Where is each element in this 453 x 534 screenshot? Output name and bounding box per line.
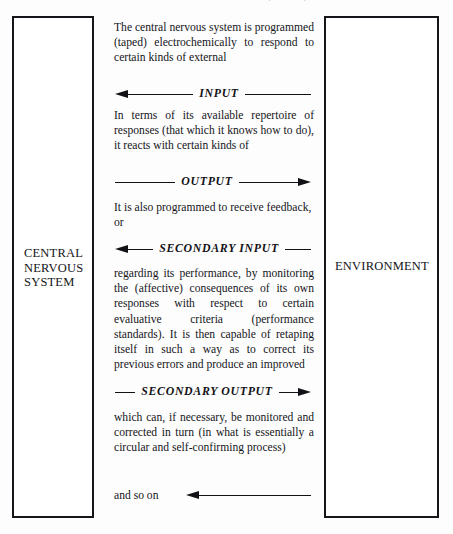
arrow-shaft (285, 249, 311, 250)
arrow-shaft (115, 392, 135, 393)
paragraph-5: which can, if necessary, be monitored an… (114, 410, 314, 456)
arrow-input-label: INPUT (193, 88, 245, 100)
arrow-shaft (198, 495, 311, 496)
paragraph-3: It is also programmed to receive feedbac… (114, 200, 314, 230)
paragraph-2: In terms of its available repertoire of … (114, 108, 314, 154)
arrow-output: OUTPUT (115, 174, 311, 190)
arrow-shaft (245, 94, 311, 95)
arrowhead-right-icon (298, 178, 311, 186)
central-nervous-system-label: CENTRAL NERVOUS SYSTEM (24, 246, 83, 290)
closing-text: and so on (114, 488, 176, 503)
arrow-secondary-input-label: SECONDARY INPUT (153, 243, 285, 255)
flow-column: The central nervous system is programmed… (114, 16, 314, 518)
arrow-loop-back (186, 487, 311, 503)
running-header: THE CNS AS A SELF-CORRECTING (TAPED) SYS… (0, 0, 453, 1)
arrow-shaft (115, 182, 175, 183)
central-nervous-system-box: CENTRAL NERVOUS SYSTEM (12, 16, 94, 518)
paragraph-1: The central nervous system is programmed… (114, 20, 314, 66)
arrow-output-label: OUTPUT (175, 176, 238, 188)
environment-label: ENVIRONMENT (335, 259, 429, 274)
arrow-input: INPUT (115, 86, 311, 102)
arrowhead-right-icon (298, 388, 311, 396)
arrow-shaft (127, 249, 153, 250)
arrow-secondary-output: SECONDARY OUTPUT (115, 384, 311, 400)
arrow-secondary-output-label: SECONDARY OUTPUT (135, 386, 278, 398)
arrow-shaft (279, 392, 299, 393)
environment-box: ENVIRONMENT (324, 16, 439, 518)
arrow-shaft (239, 182, 299, 183)
paragraph-4: regarding its performance, by monitoring… (114, 266, 314, 372)
arrow-shaft (127, 94, 193, 95)
diagram-page: THE CNS AS A SELF-CORRECTING (TAPED) SYS… (0, 0, 453, 534)
arrow-secondary-input: SECONDARY INPUT (115, 241, 311, 257)
